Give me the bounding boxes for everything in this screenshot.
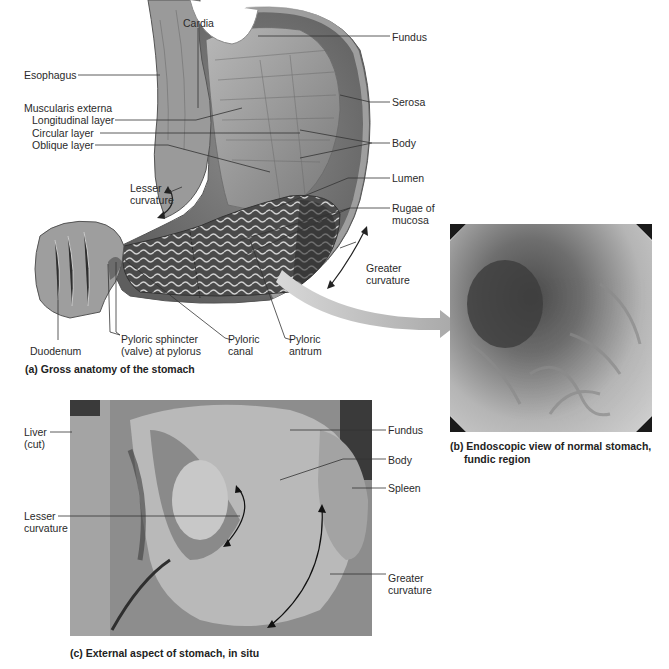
label-c-fundus: Fundus [388,424,423,436]
label-lesser-curvature-line1: Lesser [130,182,162,194]
label-rugae-line2: mucosa [392,214,429,226]
label-pyloric-sphincter-line2: (valve) at pylorus [121,345,201,357]
label-body: Body [392,137,416,149]
label-greater-curvature-line2: curvature [366,274,410,286]
label-muscularis-externa: Muscularis externa [24,102,112,114]
label-oblique-layer: Oblique layer [32,139,94,151]
label-circular-layer: Circular layer [32,127,94,139]
label-pyloric-antrum-line2: antrum [289,345,322,357]
label-pyloric-sphincter-line1: Pyloric sphincter [121,333,198,345]
caption-panel-b-line2: fundic region [464,453,531,466]
label-rugae-line1: Rugae of [392,202,435,214]
label-liver-line1: Liver [24,426,47,438]
label-lumen: Lumen [392,172,424,184]
caption-panel-c: (c) External aspect of stomach, in situ [70,647,259,660]
caption-panel-a: (a) Gross anatomy of the stomach [25,363,195,376]
label-pyloric-canal-line1: Pyloric [228,333,260,345]
label-duodenum: Duodenum [30,345,81,357]
label-c-lesser-curvature-line2: curvature [24,522,68,534]
label-esophagus: Esophagus [24,69,77,81]
label-c-greater-curvature-line2: curvature [388,584,432,596]
label-c-spleen: Spleen [388,482,421,494]
label-longitudinal-layer: Longitudinal layer [32,114,114,126]
label-pyloric-antrum-line1: Pyloric [289,333,321,345]
endoscope-frame [450,224,652,432]
label-liver-line2: (cut) [24,438,45,450]
label-pyloric-canal-line2: canal [228,345,253,357]
label-c-body: Body [388,454,412,466]
label-c-greater-curvature-line1: Greater [388,572,424,584]
label-lesser-curvature-line2: curvature [130,194,174,206]
label-c-lesser-curvature-line1: Lesser [24,510,56,522]
caption-panel-b-line1: (b) Endoscopic view of normal stomach, [450,440,651,453]
label-fundus: Fundus [392,31,427,43]
label-cardia: Cardia [183,17,214,29]
label-greater-curvature-line1: Greater [366,262,402,274]
label-serosa: Serosa [392,96,425,108]
